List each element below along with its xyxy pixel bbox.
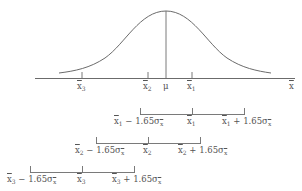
interval-1-center-label: x1 — [187, 117, 196, 127]
axis-end-label: x — [289, 82, 294, 91]
interval-1-upper-label: x1 + 1.65σx — [222, 117, 271, 127]
interval-3-bracket — [30, 166, 135, 173]
interval-3-center-label: x3 — [77, 175, 86, 185]
interval-2-upper-label: x2 + 1.65σx — [178, 146, 227, 156]
interval-2-bracket — [96, 137, 201, 144]
confidence-interval-diagram: x3 x2 μ x1 x x1 − 1.65σx x1 x1 + 1.65σx … — [0, 0, 302, 191]
normal-distribution-curve — [59, 11, 271, 73]
axis-label-x1: x1 — [187, 82, 196, 92]
diagram-canvas — [0, 0, 302, 191]
axis-label-x3: x3 — [77, 82, 86, 92]
interval-1-bracket — [140, 108, 245, 115]
interval-2-lower-label: x2 − 1.65σx — [75, 146, 124, 156]
axis-label-x2: x2 — [143, 82, 152, 92]
interval-2-center-label: x2 — [143, 146, 152, 156]
interval-1-lower-label: x1 − 1.65σx — [114, 117, 163, 127]
axis-label-mu: μ — [163, 82, 169, 91]
interval-3-lower-label: x3 − 1.65σx — [7, 175, 56, 185]
interval-3-upper-label: x3 + 1.65σx — [112, 175, 161, 185]
